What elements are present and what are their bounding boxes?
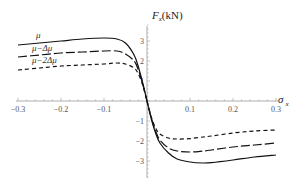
legend: μμ−Δμμ−2Δμ: [31, 30, 57, 65]
y-tick-label: −3: [135, 157, 144, 166]
legend-label: μ−2Δμ: [31, 55, 57, 65]
friction-force-chart: −0.3−0.2−0.10.10.20.3−3−2−1123 μμ−Δμμ−2Δ…: [0, 0, 305, 189]
x-tick-label: 0.1: [185, 105, 195, 114]
y-axis-title: Fx(kN): [151, 9, 183, 23]
x-tick-label: −0.2: [54, 105, 69, 114]
legend-label: μ−Δμ: [31, 43, 53, 53]
y-tick-label: 2: [140, 57, 144, 66]
x-tick-label: −0.3: [11, 105, 26, 114]
y-tick-label: −1: [135, 117, 144, 126]
legend-label: μ: [35, 30, 41, 40]
x-tick-label: 0.2: [228, 105, 238, 114]
x-tick-label: 0.3: [271, 105, 281, 114]
x-tick-label: −0.1: [97, 105, 112, 114]
y-tick-label: 3: [140, 37, 144, 46]
y-tick-label: −2: [135, 137, 144, 146]
